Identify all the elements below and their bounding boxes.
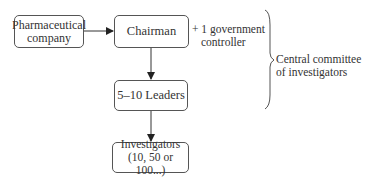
- central-committee-label: Central committee of investigators: [276, 53, 370, 79]
- committee-line2: of investigators: [276, 66, 370, 79]
- pharma-company-node: Pharmaceutical company: [14, 15, 84, 48]
- pharma-line2: company: [12, 32, 86, 45]
- investigators-node: Investigators (10, 50 or 100...): [112, 142, 189, 173]
- leaders-node: 5–10 Leaders: [114, 80, 188, 111]
- committee-line1: Central committee: [276, 53, 370, 66]
- chairman-label: Chairman: [127, 25, 176, 38]
- leaders-label: 5–10 Leaders: [117, 89, 185, 102]
- chairman-node: Chairman: [114, 15, 189, 48]
- investigators-line1: Investigators: [113, 138, 188, 151]
- controller-line2: controller: [192, 36, 270, 49]
- investigators-line2: (10, 50 or 100...): [113, 151, 188, 177]
- government-controller-note: + 1 government controller: [192, 23, 270, 49]
- controller-line1: + 1 government: [192, 23, 270, 36]
- pharma-line1: Pharmaceutical: [12, 19, 86, 32]
